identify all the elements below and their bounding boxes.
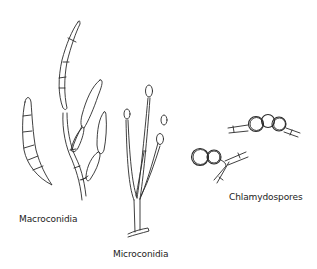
microconidia-label: Microconidia <box>113 249 168 259</box>
macroconidium-top <box>59 21 80 110</box>
macroconidia-label: Macroconidia <box>19 214 77 224</box>
diagram-drawing <box>0 0 317 269</box>
chlamydospores-label: Chlamydospores <box>229 192 303 202</box>
chlamydospores-lower-pair <box>192 149 249 184</box>
macroconidium-left <box>23 98 52 186</box>
macroconidia-conidiophore <box>63 80 107 200</box>
fungal-structures-diagram: Macroconidia Microconidia Chlamydospores <box>0 0 317 269</box>
chlamydospores-upper-chain <box>228 115 300 138</box>
microconidia-conidiophore <box>124 85 167 237</box>
